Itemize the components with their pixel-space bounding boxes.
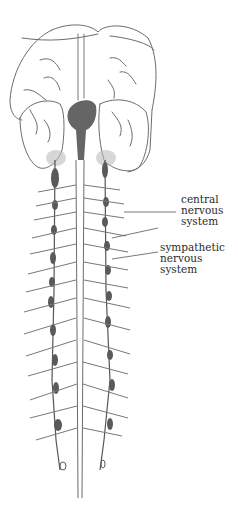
sympathetic-leader-line-2 xyxy=(112,252,158,259)
spinal-cord xyxy=(76,160,84,498)
label-line: system xyxy=(181,216,223,227)
label-line: system xyxy=(160,264,225,275)
sympathetic-nervous-system-label: sympathetic nervous system xyxy=(160,242,225,275)
sympathetic-leader-line-1 xyxy=(112,228,158,238)
central-nervous-system-label: central nervous system xyxy=(181,194,223,227)
brainstem xyxy=(46,100,116,166)
